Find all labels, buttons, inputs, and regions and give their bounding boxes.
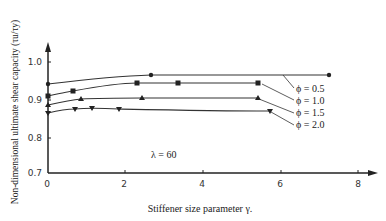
lambda-annotation: λ = 60 — [151, 149, 177, 160]
y-axis-arrow — [45, 42, 51, 52]
svg-text:6: 6 — [277, 179, 283, 189]
svg-text:0.7: 0.7 — [28, 168, 42, 178]
svg-text:0.9: 0.9 — [28, 95, 43, 105]
curve-phi-1.0 — [48, 83, 258, 96]
legend-phi-1.5: ϕ = 1.5 — [296, 107, 324, 118]
svg-text:2: 2 — [121, 179, 127, 189]
y-axis-label: Non-dimensional ultimate shear capacity … — [10, 20, 21, 204]
curve-phi-2.0 — [48, 108, 270, 113]
svg-text:0.8: 0.8 — [28, 133, 43, 143]
y-tick-labels: 0.7 0.8 0.9 1.0 — [28, 57, 43, 178]
svg-text:0: 0 — [44, 179, 50, 189]
svg-text:1.0: 1.0 — [28, 57, 43, 67]
svg-text:8: 8 — [355, 179, 361, 189]
x-axis-arrow — [368, 170, 378, 176]
x-axis-label: Stiffener size parameter γ. — [148, 203, 253, 214]
svg-text:4: 4 — [199, 179, 205, 189]
legend-phi-1.0: ϕ = 1.0 — [296, 95, 324, 106]
chart: 0.7 0.8 0.9 1.0 0 2 4 6 8 Stiffener size… — [0, 0, 386, 221]
legend: ϕ = 0.5 ϕ = 1.0 ϕ = 1.5 ϕ = 2.0 — [296, 83, 324, 130]
legend-phi-2.0: ϕ = 2.0 — [296, 119, 324, 130]
legend-leaders — [259, 75, 294, 125]
x-tick-labels: 0 2 4 6 8 — [44, 179, 361, 189]
legend-phi-0.5: ϕ = 0.5 — [296, 83, 324, 94]
